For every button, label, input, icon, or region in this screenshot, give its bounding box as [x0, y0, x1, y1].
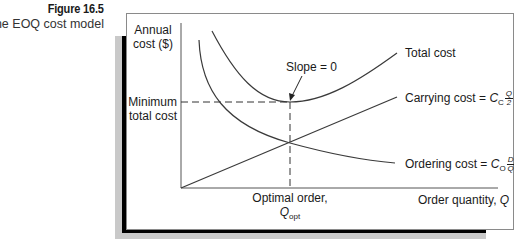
carrying-var: C: [489, 91, 498, 105]
slope-arrowhead-icon: [289, 93, 295, 101]
optimal-line1: Optimal order,: [250, 191, 330, 205]
total-cost-label: Total cost: [405, 46, 456, 60]
ordering-denominator: Q: [507, 165, 515, 173]
carrying-sub: C: [498, 98, 504, 107]
ordering-cost-label: Ordering cost = CODQ: [405, 156, 514, 176]
optimal-sub: opt: [289, 212, 300, 221]
optimal-qopt: Qopt: [250, 205, 330, 224]
optimal-var: Q: [280, 205, 289, 219]
x-axis-label-text: Order quantity,: [418, 193, 500, 207]
carrying-cost-label: Carrying cost = CCQ2: [405, 90, 513, 110]
slope-label: Slope = 0: [286, 60, 337, 74]
y-axis-label: Annual cost ($): [129, 23, 177, 51]
carrying-prefix: Carrying cost =: [405, 91, 489, 105]
slope-arrow-line: [292, 76, 302, 96]
x-axis-label: Order quantity, Q: [418, 193, 509, 207]
y-axis-label-line2: cost ($): [129, 37, 177, 51]
carrying-denominator: 2: [505, 99, 513, 107]
ordering-sub: O: [499, 164, 505, 173]
y-axis-label-line1: Annual: [129, 23, 177, 37]
optimal-order-label: Optimal order, Qopt: [250, 191, 330, 224]
carrying-fraction: Q2: [505, 90, 513, 107]
min-total-cost-label: Minimum total cost: [128, 95, 177, 123]
ordering-prefix: Ordering cost =: [405, 157, 491, 171]
ordering-fraction: DQ: [507, 156, 515, 173]
min-total-line2: total cost: [128, 109, 177, 123]
min-total-line1: Minimum: [128, 95, 177, 109]
x-axis-var: Q: [500, 193, 509, 207]
